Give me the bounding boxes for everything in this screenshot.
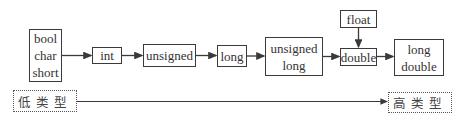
high-type-label: 高类型 (388, 92, 452, 113)
node-label: long (407, 41, 430, 58)
node-label: char (34, 47, 56, 64)
node-label: unsigned (271, 40, 318, 57)
node-unsigned-long: unsigned long (265, 37, 323, 76)
node-label: long (220, 48, 243, 65)
node-long: long (217, 45, 247, 67)
node-long-double: long double (394, 39, 444, 76)
node-float: float (340, 10, 377, 28)
node-int: int (92, 47, 122, 64)
node-double: double (340, 48, 377, 66)
node-label: int (100, 47, 114, 64)
node-label: double (341, 49, 376, 66)
node-label: unsigned (146, 47, 193, 64)
node-label: float (347, 11, 371, 28)
node-bool-char-short: bool char short (29, 29, 62, 82)
node-label: double (401, 58, 436, 75)
node-unsigned: unsigned (143, 44, 196, 67)
low-type-label: 低类型 (13, 90, 77, 112)
node-label: short (33, 64, 59, 81)
node-label: long (282, 57, 305, 74)
node-label: bool (34, 30, 57, 47)
